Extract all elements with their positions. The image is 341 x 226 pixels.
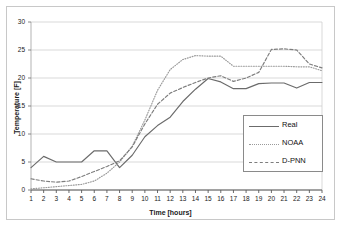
legend-swatch-dpnn bbox=[249, 162, 279, 164]
y-tick-label: 30 bbox=[7, 18, 25, 25]
legend-swatch-noaa bbox=[249, 144, 279, 146]
y-axis-title: Temperature [F] bbox=[13, 48, 20, 168]
legend-swatch-real bbox=[249, 126, 279, 128]
chart-plot-svg bbox=[0, 0, 341, 226]
legend-label-dpnn: D-PNN bbox=[282, 156, 306, 165]
x-axis-title: Time [hours] bbox=[0, 209, 341, 216]
legend-item-real: Real bbox=[244, 117, 324, 136]
y-tick-label: 0 bbox=[7, 186, 25, 193]
chart-legend: Real NOAA D-PNN bbox=[243, 115, 323, 172]
legend-item-noaa: NOAA bbox=[244, 135, 324, 154]
legend-label-real: Real bbox=[282, 120, 297, 129]
chart-figure: 051015202530 123456789101112131415161718… bbox=[0, 0, 341, 226]
legend-label-noaa: NOAA bbox=[282, 138, 303, 147]
legend-item-dpnn: D-PNN bbox=[244, 153, 324, 172]
x-tick-label: 24 bbox=[315, 195, 329, 202]
